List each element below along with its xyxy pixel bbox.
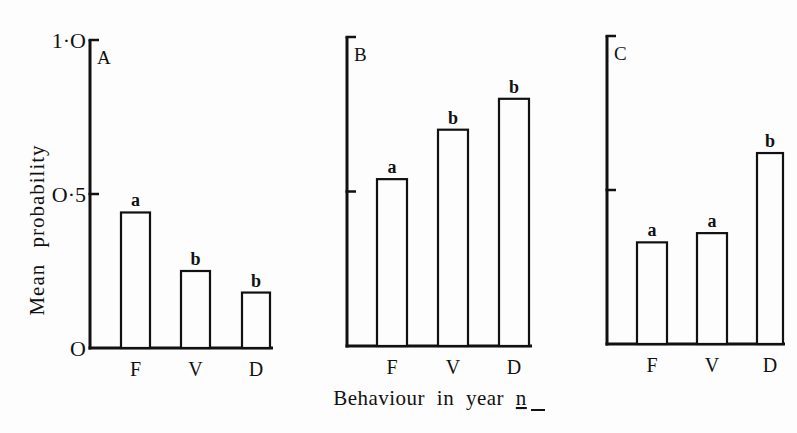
bar-f: [637, 242, 667, 344]
y-tick-label-0-5: O·5: [52, 182, 86, 207]
significance-letter: b: [509, 77, 519, 97]
x-tick-label-v: V: [188, 358, 203, 380]
significance-letter: b: [448, 108, 458, 128]
y-tick-label-0: O: [70, 336, 86, 361]
panel-label: C: [614, 43, 627, 64]
x-tick-label-d: D: [507, 356, 521, 378]
panel-c: CaFaVbD: [606, 36, 786, 376]
figure-canvas: 1·OO·5OAaFbVbDBaFbVbDCaFaVbDMean probabi…: [0, 0, 797, 433]
bar-d: [499, 99, 529, 346]
y-tick-label-1: 1·O: [52, 28, 86, 53]
y-axis-title: Mean probability: [25, 144, 49, 315]
significance-letter: b: [765, 131, 775, 151]
panel-a: 1·OO·5OAaFbVbD: [52, 28, 273, 380]
bar-d: [757, 153, 783, 344]
x-tick-label-f: F: [646, 354, 657, 376]
significance-letter: b: [190, 249, 200, 269]
significance-letter: a: [388, 157, 397, 177]
bar-v: [697, 233, 727, 344]
x-tick-label-d: D: [249, 358, 263, 380]
significance-letter: a: [708, 211, 717, 231]
panel-b: BaFbVbD: [346, 37, 533, 378]
bar-d: [242, 293, 270, 348]
bar-f: [377, 179, 407, 346]
x-tick-label-d: D: [763, 354, 777, 376]
x-axis-title-variable: n: [516, 386, 527, 410]
x-axis-title: Behaviour in year n: [333, 386, 527, 410]
x-axis-title-main: Behaviour in year: [333, 386, 516, 410]
x-tick-label-f: F: [130, 358, 141, 380]
bar-v: [181, 271, 210, 348]
significance-letter: b: [251, 271, 261, 291]
bar-v: [438, 130, 468, 346]
x-tick-label-f: F: [386, 356, 397, 378]
significance-letter: a: [131, 190, 140, 210]
panel-label: B: [354, 44, 367, 65]
x-tick-label-v: V: [705, 354, 720, 376]
bar-f: [121, 212, 150, 348]
significance-letter: a: [648, 220, 657, 240]
x-tick-label-v: V: [446, 356, 461, 378]
panel-label: A: [97, 47, 111, 68]
